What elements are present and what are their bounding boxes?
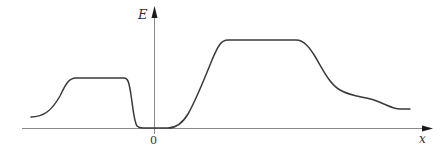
x-axis-label: x: [419, 133, 426, 145]
y-axis-arrowhead-icon: [152, 6, 158, 18]
x-axis-arrowhead-icon: [422, 126, 433, 132]
energy-diagram: E x 0: [0, 0, 448, 151]
energy-curve: [31, 40, 410, 128]
origin-label: 0: [150, 135, 157, 146]
y-axis-label: E: [138, 8, 148, 21]
